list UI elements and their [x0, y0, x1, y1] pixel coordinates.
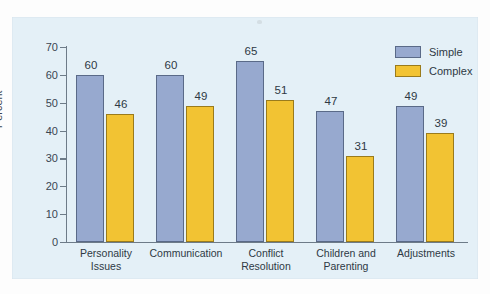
bar-complex-4[interactable]: 31 [346, 156, 374, 242]
bar-simple-1[interactable]: 60 [76, 75, 104, 242]
y-tick-label-30: 30 [32, 153, 58, 164]
bar-value-label: 46 [101, 99, 141, 111]
y-tick-label-20: 20 [32, 181, 58, 192]
bar-group: 4939 [392, 47, 466, 242]
bar-complex-3[interactable]: 51 [266, 100, 294, 242]
bar-value-label: 49 [391, 91, 431, 103]
bar-group: 6551 [232, 47, 306, 242]
y-tick-label-60: 60 [32, 69, 58, 80]
y-axis-title: Percent [0, 90, 4, 128]
bar-simple-3[interactable]: 65 [236, 61, 264, 242]
plot-area: 60466049655147314939 [66, 47, 466, 242]
scanned-page: Simple Complex Percent 010203040506070 6… [0, 0, 490, 294]
y-axis-labels: 010203040506070 [24, 0, 58, 294]
bar-value-label: 60 [71, 60, 111, 72]
bar-complex-2[interactable]: 49 [186, 106, 214, 243]
bar-value-label: 39 [421, 118, 461, 130]
scan-artifact-speckle [257, 20, 262, 24]
x-axis-line [66, 242, 468, 243]
bar-value-label: 51 [261, 85, 301, 97]
bar-group: 6049 [152, 47, 226, 242]
bar-complex-5[interactable]: 39 [426, 133, 454, 242]
bar-simple-4[interactable]: 47 [316, 111, 344, 242]
y-tick-label-40: 40 [32, 125, 58, 136]
y-tick-label-70: 70 [32, 42, 58, 53]
bar-value-label: 65 [231, 46, 271, 58]
bar-group: 4731 [312, 47, 386, 242]
y-tick-label-50: 50 [32, 97, 58, 108]
bar-value-label: 49 [181, 91, 221, 103]
bar-group: 6046 [72, 47, 146, 242]
bar-value-label: 60 [151, 60, 191, 72]
y-tick-label-0: 0 [32, 237, 58, 248]
bar-value-label: 31 [341, 141, 381, 153]
bar-value-label: 47 [311, 96, 351, 108]
x-category-label-5: Adjustments [378, 247, 474, 260]
y-tick-0 [60, 242, 66, 243]
y-tick-label-10: 10 [32, 209, 58, 220]
bar-simple-5[interactable]: 49 [396, 106, 424, 243]
bar-simple-2[interactable]: 60 [156, 75, 184, 242]
bar-complex-1[interactable]: 46 [106, 114, 134, 242]
